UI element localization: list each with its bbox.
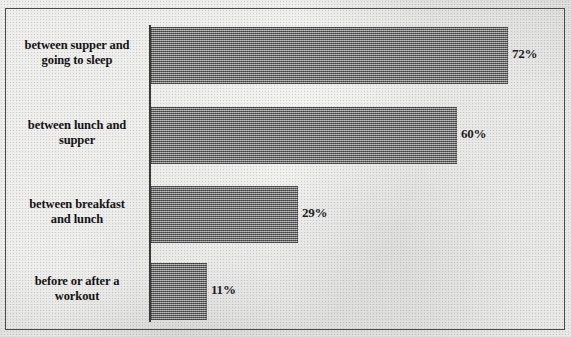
bar-value-label: 11%: [211, 282, 236, 298]
bar-category-label: between supper and going to sleep: [8, 38, 146, 68]
bar-value-label: 29%: [302, 205, 327, 221]
bar-category-label: between breakfast and lunch: [8, 197, 146, 227]
bar-value-label: 72%: [512, 46, 537, 62]
bar-category-label-line1: between supper and: [8, 38, 146, 53]
bar-category-label: before or after a workout: [8, 274, 146, 304]
bar-category-label-line1: between breakfast: [8, 197, 146, 212]
bar-rect: [151, 27, 508, 84]
bar-rect: [151, 263, 207, 320]
bar-category-label: between lunch and supper: [8, 118, 146, 148]
bar-category-label-line2: going to sleep: [8, 53, 146, 68]
bar-value-label: 60%: [461, 126, 486, 142]
bar-category-label-line1: between lunch and: [8, 118, 146, 133]
bar-category-label-line2: and lunch: [8, 212, 146, 227]
bar-category-label-line1: before or after a: [8, 274, 146, 289]
bar-chart-figure: between supper and going to sleep 72% be…: [0, 0, 571, 337]
bar-category-label-line2: workout: [8, 289, 146, 304]
plot-area: between supper and going to sleep 72% be…: [0, 0, 571, 337]
bar-category-label-line2: supper: [8, 133, 146, 148]
bar-rect: [151, 186, 298, 243]
bar-rect: [151, 107, 457, 164]
